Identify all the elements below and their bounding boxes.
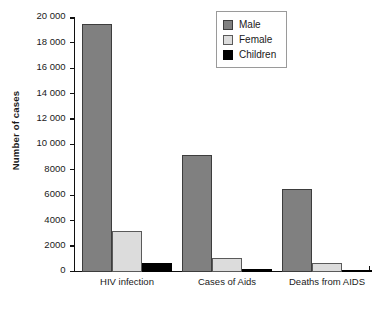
bar-female (212, 258, 242, 272)
bar-chart: Number of cases 0200040006000800010 0001… (0, 0, 384, 309)
bar-male (182, 155, 212, 272)
y-axis-tick-label: 12 000 (6, 112, 66, 123)
y-axis-tick-label: 20 000 (6, 10, 66, 21)
y-axis-tick: 14 000 (70, 93, 75, 94)
y-axis-tick: 12 000 (70, 118, 75, 119)
y-axis-tick: 2000 (70, 245, 75, 246)
x-axis-label: Deaths from AIDS (289, 276, 365, 287)
legend-item-female: Female (223, 32, 276, 47)
legend-swatch-children-icon (223, 50, 233, 60)
y-axis-tick: 8000 (70, 169, 75, 170)
bar-male (282, 189, 312, 272)
x-axis-label: HIV infection (100, 276, 154, 287)
bar-children (142, 263, 172, 272)
y-axis-tick-label: 2000 (6, 239, 66, 250)
y-axis-tick-label: 8000 (6, 163, 66, 174)
legend-item-children: Children (223, 47, 276, 62)
y-axis-tick-label: 4000 (6, 214, 66, 225)
y-axis-tick: 10 000 (70, 144, 75, 145)
bar-male (82, 24, 112, 272)
legend-swatch-female-icon (223, 35, 233, 45)
legend-label-female: Female (239, 34, 272, 45)
y-axis-tick-label: 16 000 (6, 61, 66, 72)
y-axis-tick-label: 18 000 (6, 36, 66, 47)
y-axis-tick: 6000 (70, 195, 75, 196)
bar-female (112, 231, 142, 272)
y-axis-tick: 4000 (70, 220, 75, 221)
y-axis-title: Number of cases (10, 66, 21, 196)
bar-children (242, 269, 272, 272)
y-axis-tick: 18 000 (70, 42, 75, 43)
y-axis-tick-label: 0 (6, 264, 66, 275)
y-axis-tick-label: 6000 (6, 188, 66, 199)
legend-item-male: Male (223, 17, 276, 32)
y-axis-tick-label: 10 000 (6, 137, 66, 148)
bar-children (342, 270, 372, 272)
y-axis-tick: 0 (70, 271, 75, 272)
y-axis-tick: 20 000 (70, 17, 75, 18)
y-axis-line (74, 18, 75, 272)
y-axis-tick-label: 14 000 (6, 87, 66, 98)
bar-female (312, 263, 342, 272)
y-axis-top-cap (70, 18, 75, 19)
legend-swatch-male-icon (223, 20, 233, 30)
legend-label-children: Children (239, 49, 276, 60)
legend-label-male: Male (239, 19, 261, 30)
x-axis-label: Cases of Aids (198, 276, 256, 287)
y-axis-tick: 16 000 (70, 68, 75, 69)
chart-legend: Male Female Children (216, 11, 287, 68)
